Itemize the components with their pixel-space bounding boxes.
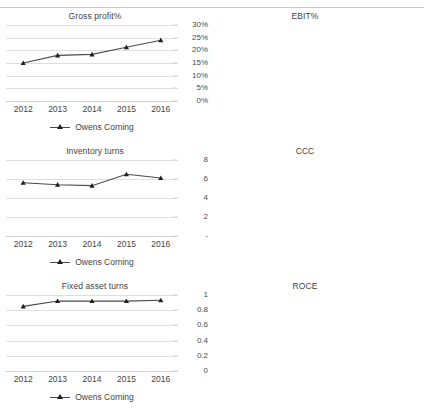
triangle-marker-icon <box>57 124 63 129</box>
data-point-marker <box>158 298 163 303</box>
legend-fixed-asset-turns[interactable]: Owens Corning <box>6 391 178 403</box>
y-axis-gross-profit-pct: 0%5%10%15%20%25%30% <box>178 25 208 101</box>
y-tick-label: 2 <box>204 213 208 221</box>
y-tick-mark <box>173 198 177 199</box>
legend-label: Owens Corning <box>75 122 134 132</box>
y-tick-label: 10% <box>192 72 208 80</box>
y-tick-label: 6 <box>204 175 208 183</box>
y-tick-mark <box>173 101 177 102</box>
y-tick-mark <box>173 75 177 76</box>
x-tick-label: 2015 <box>109 239 143 253</box>
chart-title-roce: ROCE <box>212 281 424 291</box>
chart-title-ccc: CCC <box>212 146 424 156</box>
data-point-marker <box>124 172 129 177</box>
figure-page: Figure — Owens Corning ratio analysis Gr… <box>0 0 424 412</box>
x-tick-label: 2016 <box>144 374 178 388</box>
y-tick-label: 25% <box>192 34 208 42</box>
cutoff-header: Figure — Owens Corning ratio analysis <box>0 0 424 9</box>
legend-marker-icon <box>50 123 70 131</box>
triangle-marker-icon <box>57 259 63 264</box>
x-axis-gross-profit-pct: 20122013201420152016 <box>6 104 178 118</box>
y-tick-label: 8 <box>204 156 208 164</box>
x-axis-inventory-turns: 20122013201420152016 <box>6 239 178 253</box>
y-tick-mark <box>173 50 177 51</box>
series-markers-fixed-asset-turns <box>6 295 178 371</box>
y-tick-mark <box>173 310 177 311</box>
y-tick-label: 0.6 <box>197 321 208 329</box>
data-point-marker <box>21 304 26 309</box>
chart-grid: Gross profit%0%5%10%15%20%25%30%20122013… <box>0 9 424 412</box>
y-tick-label: 0.8 <box>197 306 208 314</box>
x-tick-label: 2013 <box>40 374 74 388</box>
y-tick-mark <box>173 37 177 38</box>
y-tick-mark <box>173 295 177 296</box>
y-tick-mark <box>173 88 177 89</box>
plot-area-fixed-asset-turns <box>6 295 178 371</box>
data-point-marker <box>21 180 26 185</box>
y-tick-label: 0.4 <box>197 337 208 345</box>
chart-panel-ccc: CCC-1020304020122013201420152016Owens Co… <box>212 144 424 279</box>
legend-marker-icon <box>50 258 70 266</box>
header-rule <box>0 7 424 8</box>
x-tick-label: 2012 <box>6 239 40 253</box>
data-point-marker <box>55 298 60 303</box>
chart-title-ebit-pct: EBIT% <box>212 11 424 21</box>
legend-inventory-turns[interactable]: Owens Corning <box>6 256 178 268</box>
data-point-marker <box>55 182 60 187</box>
x-tick-label: 2016 <box>144 239 178 253</box>
series-markers-gross-profit-pct <box>6 25 178 101</box>
chart-panel-gross-profit-pct: Gross profit%0%5%10%15%20%25%30%20122013… <box>0 9 212 144</box>
y-tick-label: 4 <box>204 194 208 202</box>
data-point-marker <box>124 45 129 50</box>
x-tick-label: 2012 <box>6 374 40 388</box>
y-tick-label: 0% <box>196 97 208 105</box>
x-tick-label: 2015 <box>109 104 143 118</box>
gridline <box>6 101 178 102</box>
x-tick-label: 2014 <box>75 374 109 388</box>
chart-panel-ebit-pct: EBIT%0%5%10%15%20122013201420152016Owens… <box>212 9 424 144</box>
data-point-marker <box>158 38 163 43</box>
y-tick-label: - <box>205 232 208 240</box>
x-tick-label: 2014 <box>75 104 109 118</box>
data-point-marker <box>124 298 129 303</box>
y-tick-mark <box>173 63 177 64</box>
y-tick-label: 0.2 <box>197 352 208 360</box>
y-axis-inventory-turns: -2468 <box>178 160 208 236</box>
x-tick-label: 2012 <box>6 104 40 118</box>
chart-panel-fixed-asset-turns: Fixed asset turns00.20.40.60.81201220132… <box>0 279 212 412</box>
y-tick-label: 0 <box>204 367 208 375</box>
y-axis-fixed-asset-turns: 00.20.40.60.81 <box>178 295 208 371</box>
legend-marker-icon <box>50 393 70 401</box>
y-tick-mark <box>173 325 177 326</box>
x-tick-label: 2015 <box>109 374 143 388</box>
legend-label: Owens Corning <box>75 257 134 267</box>
legend-label: Owens Corning <box>75 392 134 402</box>
y-tick-mark <box>173 160 177 161</box>
x-tick-label: 2016 <box>144 104 178 118</box>
y-tick-mark <box>173 355 177 356</box>
chart-panel-inventory-turns: Inventory turns-246820122013201420152016… <box>0 144 212 279</box>
data-point-marker <box>158 175 163 180</box>
y-tick-label: 15% <box>192 59 208 67</box>
x-axis-fixed-asset-turns: 20122013201420152016 <box>6 374 178 388</box>
y-tick-mark <box>173 217 177 218</box>
y-tick-mark <box>173 236 177 237</box>
y-tick-label: 1 <box>204 291 208 299</box>
triangle-marker-icon <box>57 394 63 399</box>
y-tick-mark <box>173 371 177 372</box>
y-tick-mark <box>173 340 177 341</box>
chart-panel-roce: ROCE0%2%4%6%8%10%12%20122013201420152016… <box>212 279 424 412</box>
data-point-marker <box>89 183 94 188</box>
chart-title-fixed-asset-turns: Fixed asset turns <box>0 281 212 291</box>
y-tick-label: 5% <box>196 84 208 92</box>
data-point-marker <box>89 298 94 303</box>
gridline <box>6 236 178 237</box>
data-point-marker <box>89 52 94 57</box>
y-tick-mark <box>173 25 177 26</box>
x-tick-label: 2014 <box>75 239 109 253</box>
series-markers-inventory-turns <box>6 160 178 236</box>
plot-area-inventory-turns <box>6 160 178 236</box>
legend-gross-profit-pct[interactable]: Owens Corning <box>6 121 178 133</box>
y-tick-mark <box>173 179 177 180</box>
y-tick-label: 20% <box>192 46 208 54</box>
